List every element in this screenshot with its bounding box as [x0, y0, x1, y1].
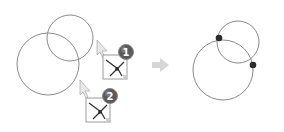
large-circle [17, 33, 79, 95]
badge-number: 1 [123, 47, 130, 58]
badge-number: 2 [107, 91, 114, 102]
small-circle [47, 15, 93, 61]
cursor-icon [80, 80, 90, 98]
intersection-point [250, 62, 257, 69]
intersection-point [216, 35, 223, 42]
step-badge: 1 [119, 45, 134, 60]
large-circle [193, 40, 253, 100]
right-arrow-icon [152, 58, 169, 72]
small-circle [217, 21, 259, 63]
step-2: 2 [80, 80, 118, 122]
after-state [193, 21, 259, 100]
intersect-diagram: 1 2 [0, 0, 284, 132]
step-1: 1 [97, 40, 134, 79]
step-badge: 2 [103, 89, 118, 104]
